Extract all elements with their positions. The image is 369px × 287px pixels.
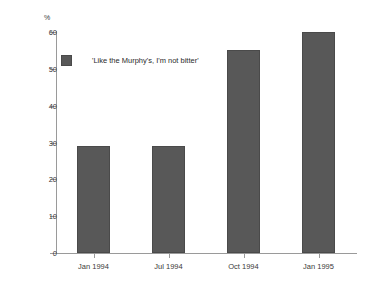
x-axis-line bbox=[56, 253, 357, 254]
y-axis-tick-label: 30 bbox=[27, 138, 57, 147]
y-axis-unit-label: % bbox=[44, 14, 50, 21]
legend-swatch-icon bbox=[61, 55, 72, 66]
y-axis-tick-label: 50 bbox=[27, 64, 57, 73]
x-axis-tick-label: Jan 1994 bbox=[78, 262, 109, 271]
x-axis-tick-label: Jul 1994 bbox=[154, 262, 182, 271]
x-axis-tick-label: Oct 1994 bbox=[228, 262, 258, 271]
x-axis-tick bbox=[244, 253, 245, 258]
x-axis-tick bbox=[319, 253, 320, 258]
chart-legend: 'Like the Murphy's, I'm not bitter' bbox=[61, 55, 199, 66]
x-axis-tick-label: Jan 1995 bbox=[303, 262, 334, 271]
bar bbox=[152, 146, 185, 253]
y-axis-tick-label: 0 bbox=[27, 249, 57, 258]
y-axis-tick-label: 60 bbox=[27, 28, 57, 37]
x-axis-tick bbox=[169, 253, 170, 258]
y-axis-tick-label: 40 bbox=[27, 101, 57, 110]
bar-chart: % 0102030405060 Jan 1994Jul 1994Oct 1994… bbox=[0, 0, 369, 287]
bar bbox=[302, 32, 335, 253]
y-axis-tick-label: 10 bbox=[27, 212, 57, 221]
legend-label: 'Like the Murphy's, I'm not bitter' bbox=[92, 56, 199, 65]
bar bbox=[227, 50, 260, 253]
y-axis-tick-label: 20 bbox=[27, 175, 57, 184]
x-axis-tick bbox=[94, 253, 95, 258]
bar bbox=[77, 146, 110, 253]
